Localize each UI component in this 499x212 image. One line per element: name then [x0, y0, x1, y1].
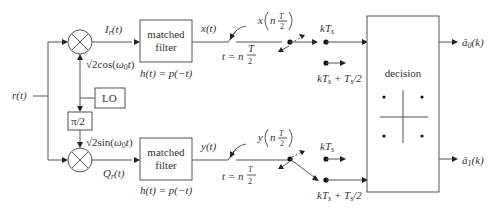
i-branch-label: Ir(t) [104, 23, 123, 37]
x-signal-label: x(t) [200, 22, 217, 35]
lo-label: LO [102, 92, 117, 104]
qpsk-receiver-diagram: r(t) LO π/2 √2cos(ω0t) √2sin(ω0t) Ir(t) … [0, 0, 499, 212]
svg-text:n: n [270, 131, 276, 143]
sin-carrier-label: √2sin(ω0t) [86, 136, 133, 150]
svg-text:T: T [279, 12, 284, 21]
svg-text:2: 2 [280, 139, 284, 148]
top-sample-time-label: t = n [222, 50, 244, 62]
top-matched-filter: matched filter [140, 20, 192, 62]
svg-text:T: T [248, 42, 255, 54]
svg-text:matched: matched [147, 28, 185, 40]
bottom-sample-time-label: t = n [222, 170, 244, 182]
svg-text:2: 2 [280, 22, 284, 31]
svg-text:matched: matched [147, 146, 185, 158]
y-signal-label: y(t) [200, 140, 217, 153]
svg-text:n: n [270, 14, 276, 26]
y-sample-label: y [257, 131, 263, 143]
svg-text:2: 2 [248, 177, 252, 186]
bottom-mixer [68, 148, 92, 172]
top-switch-pos1-label: kTs [320, 22, 334, 36]
output-a0-label: â0(k) [462, 36, 484, 50]
bottom-matched-filter: matched filter [140, 138, 192, 180]
bottom-switch-pos1-label: kTs [320, 140, 334, 154]
bottom-switch-pos2-label: kTs + Ts/2 [317, 189, 362, 203]
svg-text:2: 2 [248, 57, 252, 66]
input-label: r(t) [12, 89, 27, 102]
decision-label: decision [385, 67, 422, 79]
output-a1-label: â1(k) [462, 154, 484, 168]
svg-text:T: T [248, 165, 253, 174]
x-sample-label: x [257, 14, 263, 26]
decision-block: decision [367, 16, 439, 192]
svg-text:T: T [279, 129, 284, 138]
top-mixer [68, 30, 92, 54]
svg-text:filter: filter [155, 41, 177, 53]
top-impulse-response: h(t) = p(−t) [140, 67, 192, 80]
phase-shift-label: π/2 [71, 115, 85, 127]
cos-carrier-label: √2cos(ω0t) [86, 58, 135, 72]
q-branch-label: Qr(t) [103, 167, 125, 181]
bottom-impulse-response: h(t) = p(−t) [140, 184, 192, 197]
svg-text:filter: filter [155, 159, 177, 171]
top-switch-pos2-label: kTs + Ts/2 [317, 72, 362, 86]
